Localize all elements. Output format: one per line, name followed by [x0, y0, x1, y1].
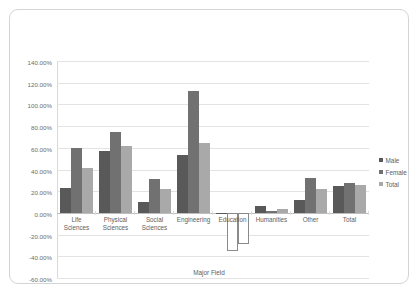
- x-axis-title: Major Field: [10, 269, 408, 276]
- y-axis-tick-label: -60.00%: [29, 276, 52, 283]
- x-axis-category-label: PhysicalSciences: [103, 216, 129, 232]
- bar-total: [355, 185, 366, 213]
- x-axis-category-line: Sciences: [64, 224, 90, 232]
- gridline: -60.00%: [57, 278, 369, 279]
- y-axis-tick-label: 120.00%: [28, 80, 52, 87]
- x-axis-category-line: Social: [142, 216, 168, 224]
- bar-group: Education: [213, 61, 252, 278]
- chart-container: 140.00%120.00%100.00%80.00%60.00%40.00%2…: [9, 9, 409, 284]
- x-axis-category-label: Other: [303, 216, 319, 224]
- x-axis-category-line: Engineering: [177, 216, 211, 224]
- chart-legend: MaleFemaleTotal: [379, 154, 407, 190]
- bar-total: [199, 143, 210, 213]
- y-axis-tick-label: 0.00%: [34, 210, 52, 217]
- bar-male: [138, 202, 149, 213]
- category-tick: [368, 211, 369, 215]
- bar-male: [99, 151, 110, 213]
- bar-group: PhysicalSciences: [96, 61, 135, 278]
- bar-male: [216, 213, 227, 214]
- legend-swatch-icon: [379, 182, 383, 186]
- bar-female: [266, 211, 277, 213]
- y-axis-tick-label: 140.00%: [28, 59, 52, 66]
- legend-swatch-icon: [379, 170, 383, 174]
- bar-female: [344, 183, 355, 213]
- bar-group: Engineering: [174, 61, 213, 278]
- y-axis-tick-label: -20.00%: [29, 232, 52, 239]
- bar-female: [71, 148, 82, 213]
- y-axis-tick-label: 40.00%: [31, 167, 52, 174]
- bar-groups: LifeSciencesPhysicalSciencesSocialScienc…: [57, 61, 369, 278]
- x-axis-category-line: Total: [343, 216, 356, 224]
- x-axis-category-line: Education: [218, 216, 246, 224]
- legend-label: Total: [386, 181, 400, 188]
- x-axis-category-label: Humanities: [256, 216, 288, 224]
- x-axis-category-line: Life: [64, 216, 90, 224]
- x-axis-category-line: Physical: [103, 216, 129, 224]
- x-axis-category-label: LifeSciences: [64, 216, 90, 232]
- legend-label: Male: [386, 157, 400, 164]
- bar-female: [305, 178, 316, 213]
- legend-item: Male: [379, 154, 407, 166]
- bar-group: LifeSciences: [57, 61, 96, 278]
- bar-group: Other: [291, 61, 330, 278]
- y-axis-tick-label: 20.00%: [31, 189, 52, 196]
- bar-group: Humanities: [252, 61, 291, 278]
- bar-female: [188, 91, 199, 213]
- bar-female: [149, 179, 160, 213]
- plot-area: 140.00%120.00%100.00%80.00%60.00%40.00%2…: [57, 61, 369, 278]
- bar-total: [121, 146, 132, 213]
- x-axis-category-label: Engineering: [177, 216, 211, 224]
- bar-male: [60, 188, 71, 212]
- bar-total: [277, 209, 288, 213]
- x-axis-category-line: Sciences: [142, 224, 168, 232]
- y-axis-tick-label: 100.00%: [28, 102, 52, 109]
- bar-total: [316, 189, 327, 213]
- legend-item: Total: [379, 178, 407, 190]
- bar-male: [294, 200, 305, 213]
- x-axis-category-line: Sciences: [103, 224, 129, 232]
- legend-label: Female: [386, 169, 407, 176]
- bar-group: Total: [330, 61, 369, 278]
- bar-male: [177, 155, 188, 213]
- x-axis-category-line: Humanities: [256, 216, 288, 224]
- bar-group: SocialSciences: [135, 61, 174, 278]
- legend-item: Female: [379, 166, 407, 178]
- legend-swatch-icon: [379, 158, 383, 162]
- bar-total: [82, 168, 93, 213]
- bar-male: [333, 186, 344, 213]
- y-axis-tick-label: -40.00%: [29, 254, 52, 261]
- x-axis-category-label: Education: [218, 216, 246, 224]
- x-axis-category-line: Other: [303, 216, 319, 224]
- bar-female: [110, 132, 121, 213]
- bar-male: [255, 206, 266, 213]
- y-axis-tick-label: 80.00%: [31, 124, 52, 131]
- x-axis-category-label: SocialSciences: [142, 216, 168, 232]
- y-axis-tick-label: 60.00%: [31, 145, 52, 152]
- x-axis-category-label: Total: [343, 216, 356, 224]
- bar-total: [160, 189, 171, 213]
